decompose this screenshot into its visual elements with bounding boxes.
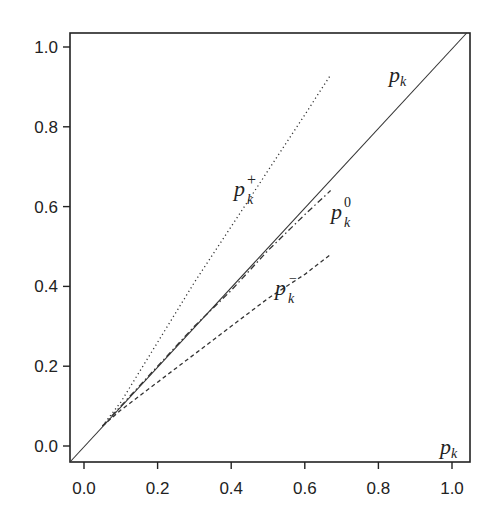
x-tick-label: 0.4 — [219, 479, 243, 498]
y-axis: 0.00.20.40.60.81.0 — [34, 38, 70, 456]
svg-text:0: 0 — [344, 195, 351, 210]
x-tick-label: 1.0 — [440, 479, 464, 498]
x-tick-label: 0.6 — [293, 479, 317, 498]
chart: 0.00.20.40.60.81.0 0.00.20.40.60.81.0 pk… — [0, 0, 497, 525]
y-tick-label: 0.0 — [34, 437, 58, 456]
label-pk-zero: p k 0 — [329, 195, 351, 230]
svg-text:p: p — [232, 176, 245, 201]
svg-text:k: k — [288, 291, 295, 306]
series-line-p-k-0 — [102, 191, 330, 427]
x-tick-label: 0.8 — [367, 479, 391, 498]
svg-text:k: k — [344, 215, 351, 230]
label-diagonal-pk: pk — [387, 62, 407, 89]
series-group — [70, 33, 467, 462]
svg-text:p: p — [329, 199, 342, 224]
x-tick-label: 0.2 — [146, 479, 170, 498]
series-line-p-k- — [102, 75, 330, 426]
svg-text:k: k — [247, 192, 254, 207]
label-pk-minus: p k − — [273, 271, 297, 306]
svg-text:p: p — [273, 275, 286, 300]
series-line-p-k — [70, 33, 467, 462]
x-tick-label: 0.0 — [72, 479, 96, 498]
svg-text:pk: pk — [438, 434, 458, 461]
y-tick-label: 0.8 — [34, 118, 58, 137]
svg-text:pk: pk — [387, 62, 407, 89]
x-axis-variable-label: pk — [438, 434, 458, 461]
label-pk-plus: p k + — [232, 171, 256, 207]
svg-text:−: − — [289, 271, 297, 286]
svg-text:+: + — [247, 171, 256, 188]
x-axis: 0.00.20.40.60.81.0 — [72, 462, 464, 498]
y-tick-label: 0.2 — [34, 357, 58, 376]
y-tick-label: 0.6 — [34, 198, 58, 217]
y-tick-label: 1.0 — [34, 38, 58, 57]
y-tick-label: 0.4 — [34, 277, 58, 296]
